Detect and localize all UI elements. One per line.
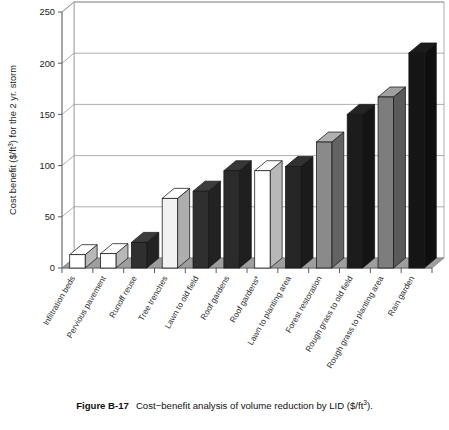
bar-7 [255,161,282,268]
bar-side-face [393,87,405,268]
bar-front-face [70,255,85,268]
category-label-7: Roof gardens* [228,274,262,325]
y-tick-label-250: 250 [39,7,55,17]
category-label-12: Rain garden [386,274,416,318]
bar-6 [224,161,251,268]
bar-5 [193,181,220,268]
y-tick-label-200: 200 [39,59,55,69]
bar-front-face [162,198,177,268]
y-tick-label-150: 150 [39,110,55,120]
bar-10 [347,104,374,268]
bar-side-face [332,132,344,268]
bar-front-face [255,171,270,268]
y-axis-title-text: Cost benefit ($/ft3) for the 2 yr. storm [7,65,19,215]
bar-4 [162,188,189,268]
bar-front-face [193,191,208,268]
bar-8 [286,157,313,268]
figure-caption-label: Figure B-17 [76,400,129,411]
cost-benefit-bar-chart: 050100150200250 Infiltration bedsPerviou… [0,0,449,392]
bar-side-face [208,181,220,268]
bar-front-face [101,254,116,268]
bar-side-face [239,161,251,268]
bar-front-face [131,242,146,268]
bar-front-face [409,53,424,268]
figure-caption: Figure B-17Cost−benefit analysis of volu… [0,396,449,413]
bar-side-face [270,161,282,268]
y-tick-label-0: 0 [50,263,55,273]
category-label-5: Lawn to old field [163,274,201,330]
bar-front-face [286,167,301,268]
bar-side-face [424,43,436,268]
bar-front-face [378,97,393,268]
bar-11 [378,87,405,268]
y-tick-label-100: 100 [39,161,55,171]
bar-front-face [347,114,362,268]
chart-left-wall [62,2,74,268]
bar-side-face [301,157,313,268]
x-axis-category-labels: Infiltration bedsPervious pavementRunoff… [42,274,417,370]
category-label-3: Runoff reuse [108,274,139,319]
x-axis-ticks [62,268,432,273]
bar-side-face [363,104,375,268]
bar-side-face [178,188,190,268]
bar-12 [409,43,436,268]
y-tick-label-50: 50 [45,212,55,222]
category-label-4: Tree trenches [137,275,170,323]
category-label-1: Infiltration beds [42,275,78,328]
figure-caption-tail: ). [367,400,373,411]
y-axis-title: Cost benefit ($/ft3) for the 2 yr. storm [7,65,19,215]
bar-front-face [316,142,331,268]
bar-9 [316,132,343,268]
figure-b-17: 050100150200250 Infiltration bedsPerviou… [0,0,449,430]
category-label-6: Roof gardens [199,275,231,322]
category-label-11: Rough grass to planting area [325,274,386,370]
figure-caption-text: Cost−benefit analysis of volume reductio… [136,400,363,411]
bar-front-face [224,171,239,268]
